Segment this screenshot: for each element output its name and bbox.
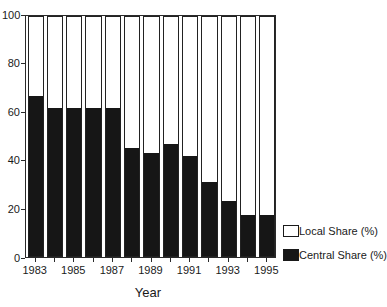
bar-1995-central-segment: [260, 215, 274, 256]
x-tick-1993: [228, 258, 229, 262]
bar-1988-central-segment: [125, 148, 139, 256]
legend: Local Share (%)Central Share (%): [283, 224, 387, 272]
bar-1990-central-segment: [164, 144, 178, 256]
x-tick-1984: [54, 258, 55, 262]
x-tick-1986: [93, 258, 94, 262]
bar-1985: [66, 16, 82, 257]
bar-1983-central-segment: [29, 96, 43, 256]
x-tick-label-1995: 1995: [249, 264, 283, 276]
bar-1986: [85, 16, 101, 257]
x-tick-1983: [35, 258, 36, 262]
bar-1993: [221, 16, 237, 257]
bar-1984: [47, 16, 63, 257]
x-tick-label-1983: 1983: [18, 264, 52, 276]
x-tick-1992: [208, 258, 209, 262]
y-tick-label-100: 100: [2, 10, 20, 21]
y-tick-20: [21, 209, 25, 210]
x-axis-title: Year: [108, 285, 188, 300]
legend-label-central-share: Central Share (%): [299, 249, 387, 261]
y-tick-label-40: 40: [2, 155, 20, 166]
bar-1992-central-segment: [202, 182, 216, 256]
bar-1989: [143, 16, 159, 257]
y-tick-label-60: 60: [2, 107, 20, 118]
x-tick-1988: [131, 258, 132, 262]
y-tick-100: [21, 15, 25, 16]
x-tick-label-1993: 1993: [211, 264, 245, 276]
x-tick-1989: [151, 258, 152, 262]
bar-1991-central-segment: [183, 156, 197, 256]
y-tick-label-80: 80: [2, 58, 20, 69]
legend-label-local-share: Local Share (%): [299, 225, 378, 237]
bar-1986-central-segment: [86, 108, 100, 256]
bar-1987: [105, 16, 121, 257]
y-tick-40: [21, 160, 25, 161]
y-tick-60: [21, 112, 25, 113]
legend-swatch-local-share: [283, 225, 299, 237]
x-tick-1985: [73, 258, 74, 262]
x-tick-1990: [170, 258, 171, 262]
x-tick-1991: [189, 258, 190, 262]
legend-item-local-share: Local Share (%): [283, 224, 387, 238]
bar-1993-central-segment: [222, 201, 236, 256]
bar-1984-central-segment: [48, 108, 62, 256]
legend-item-central-share: Central Share (%): [283, 248, 387, 262]
x-tick-1987: [112, 258, 113, 262]
bar-1994-central-segment: [241, 215, 255, 256]
bar-1987-central-segment: [106, 108, 120, 256]
x-tick-label-1987: 1987: [95, 264, 129, 276]
bar-1992: [201, 16, 217, 257]
bar-1983: [28, 16, 44, 257]
y-tick-0: [21, 258, 25, 259]
x-tick-label-1989: 1989: [134, 264, 168, 276]
bar-1990: [163, 16, 179, 257]
x-tick-1994: [247, 258, 248, 262]
y-tick-label-20: 20: [2, 204, 20, 215]
plot-area: [25, 15, 276, 258]
bar-1995: [259, 16, 275, 257]
y-tick-80: [21, 63, 25, 64]
bar-1988: [124, 16, 140, 257]
x-tick-1995: [266, 258, 267, 262]
bar-1989-central-segment: [144, 153, 158, 256]
bar-1985-central-segment: [67, 108, 81, 256]
x-tick-label-1991: 1991: [172, 264, 206, 276]
legend-swatch-central-share: [283, 249, 299, 261]
bar-1991: [182, 16, 198, 257]
bar-1994: [240, 16, 256, 257]
x-tick-label-1985: 1985: [56, 264, 90, 276]
y-tick-label-0: 0: [2, 253, 20, 264]
